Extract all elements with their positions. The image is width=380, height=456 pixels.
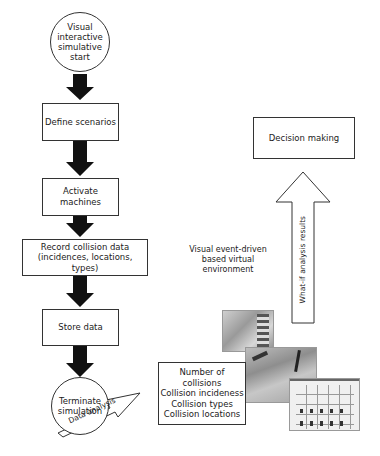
start-line: interactive — [57, 32, 103, 42]
result-number-of-collisions: Number of collisions — [159, 367, 245, 388]
collision-results-box: Number of collisions Collision incidenes… — [158, 362, 246, 425]
whatif-analysis-label: What-if analysis results — [298, 210, 307, 310]
env-label-line: environment — [183, 265, 273, 275]
env-label-line: Visual event-driven — [183, 245, 273, 255]
record-collision-line1: Record collision data — [23, 242, 147, 253]
store-data-label: Store data — [58, 322, 102, 333]
virtual-environment-label: Visual event-driven based virtual enviro… — [183, 245, 273, 275]
start-line: simulative — [57, 42, 103, 52]
virtual-env-image-3 — [289, 378, 360, 431]
decision-making-box: Decision making — [253, 117, 355, 159]
activate-machines-label: Activate machines — [43, 186, 118, 207]
result-collision-types: Collision types — [159, 399, 245, 410]
start-node: Visual interactive simulative start — [50, 12, 110, 72]
record-collision-line2: (incidences, locations, types) — [23, 252, 147, 273]
store-data-box: Store data — [42, 309, 119, 346]
result-collision-locations: Collision locations — [159, 409, 245, 420]
define-scenarios-label: Define scenarios — [45, 117, 116, 128]
result-collision-incideness: Collision incideness — [159, 388, 245, 399]
record-collision-box: Record collision data (incidences, locat… — [22, 239, 148, 276]
env-label-line: based virtual — [183, 255, 273, 265]
start-line: Visual — [57, 22, 103, 32]
activate-machines-box: Activate machines — [42, 178, 119, 216]
virtual-env-image-1 — [222, 310, 274, 352]
decision-making-label: Decision making — [269, 133, 339, 144]
define-scenarios-box: Define scenarios — [42, 103, 119, 141]
start-line: start — [57, 52, 103, 62]
